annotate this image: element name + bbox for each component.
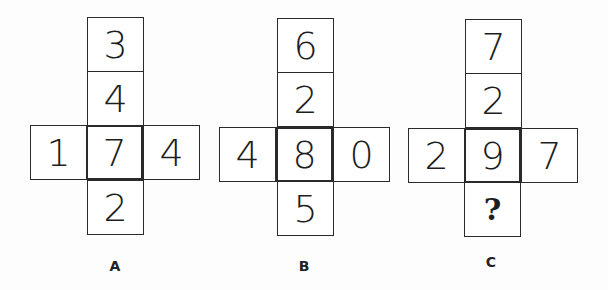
cell-left: 1	[30, 125, 87, 180]
cell-right: 4	[143, 125, 200, 180]
figure-label: B	[284, 258, 324, 274]
cell-upper: 2	[465, 73, 522, 128]
cell-top: 6	[277, 18, 334, 73]
cell-bottom-unknown: ?	[464, 182, 521, 237]
figure-b: 6 2 4 8 0 5 B	[219, 0, 399, 290]
cell-top: 7	[465, 19, 522, 74]
cell-top: 3	[87, 17, 144, 72]
cell-center: 7	[86, 125, 143, 180]
figure-a: 3 4 1 7 4 2 A	[30, 0, 210, 290]
cell-left: 4	[219, 127, 276, 182]
cell-bottom: 5	[277, 181, 334, 236]
cell-left: 2	[408, 128, 465, 183]
cell-upper: 4	[87, 71, 144, 126]
figure-label: A	[95, 258, 135, 274]
cell-right: 7	[521, 128, 578, 183]
figure-c: 7 2 2 9 7 ? C	[408, 0, 588, 290]
figure-label: C	[471, 254, 511, 270]
cell-right: 0	[333, 127, 390, 182]
cell-upper: 2	[277, 72, 334, 127]
cell-center: 9	[464, 128, 521, 183]
cell-bottom: 2	[87, 180, 144, 235]
cell-center: 8	[276, 127, 333, 182]
